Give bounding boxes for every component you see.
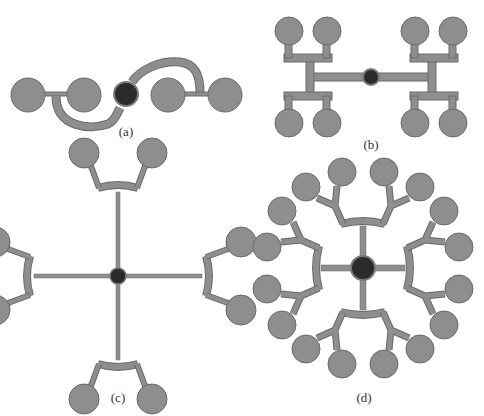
pad <box>439 17 467 45</box>
pad <box>406 173 434 201</box>
pad <box>401 17 429 45</box>
pad <box>67 78 101 112</box>
pad <box>268 311 296 339</box>
pad <box>0 295 10 325</box>
center-feed <box>351 256 375 280</box>
pad <box>137 138 167 168</box>
pad <box>430 311 458 339</box>
panel-a-label: (a) <box>119 124 133 140</box>
panel-a <box>11 62 242 127</box>
pad <box>328 158 356 186</box>
pad <box>292 173 320 201</box>
pad <box>406 335 434 363</box>
center-feed <box>363 69 379 85</box>
panel-d-label: (d) <box>356 390 371 406</box>
pad <box>328 350 356 378</box>
panel-c <box>0 138 256 414</box>
pad <box>253 275 281 303</box>
pad <box>313 17 341 45</box>
center-feed <box>110 268 126 284</box>
figure: (a) (b) (c) (d) <box>0 0 484 416</box>
pad <box>445 275 473 303</box>
pad <box>226 295 256 325</box>
pad <box>292 335 320 363</box>
diagram-canvas <box>0 0 484 416</box>
pad <box>253 233 281 261</box>
pad <box>268 197 296 225</box>
panel-b-label: (b) <box>363 137 378 153</box>
center-feed <box>114 82 138 106</box>
pad <box>69 138 99 168</box>
pad <box>313 109 341 137</box>
pad <box>11 78 45 112</box>
pad <box>69 384 99 414</box>
panel-c-label: (c) <box>111 390 125 406</box>
pad <box>370 158 398 186</box>
pad <box>430 197 458 225</box>
panel-b <box>275 17 467 137</box>
pad <box>401 109 429 137</box>
pad <box>151 78 185 112</box>
pad <box>445 233 473 261</box>
pad <box>439 109 467 137</box>
pad <box>275 109 303 137</box>
pad <box>0 227 10 257</box>
panel-d <box>253 158 473 378</box>
pad <box>370 350 398 378</box>
pad <box>137 384 167 414</box>
pad <box>275 17 303 45</box>
pad <box>226 227 256 257</box>
pad <box>208 78 242 112</box>
